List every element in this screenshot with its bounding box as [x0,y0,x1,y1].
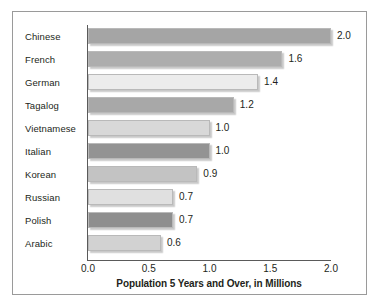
bar [88,143,210,159]
bar [88,97,234,113]
bar-row: Korean 0.9 [12,163,367,186]
bar-row: Polish 0.7 [12,209,367,232]
bar-row: Tagalog 1.2 [12,94,367,117]
bar-value-label: 0.6 [167,234,181,251]
bar-row: Italian 1.0 [12,140,367,163]
bar [88,120,210,136]
x-tick-label: 0.0 [68,263,108,274]
bar-row: German 1.4 [12,71,367,94]
bar [88,212,173,228]
category-label: Chinese [25,25,85,48]
plot-area: Chinese 2.0 French 1.6 German 1.4 Tagalo… [12,11,367,295]
bar-row: Russian 0.7 [12,186,367,209]
bar-row: French 1.6 [12,48,367,71]
x-tick-label: 1.5 [250,263,290,274]
bar [88,189,173,205]
category-label: German [25,71,85,94]
bar-row: Chinese 2.0 [12,25,367,48]
category-label: Tagalog [25,94,85,117]
bar-value-label: 1.4 [264,73,278,90]
category-label: Vietnamese [25,117,85,140]
bar-value-label: 0.7 [179,188,193,205]
bar-value-label: 1.0 [216,119,230,136]
category-label: Polish [25,209,85,232]
bar [88,235,161,251]
bar-row: Vietnamese 1.0 [12,117,367,140]
bar [88,166,197,182]
category-label: French [25,48,85,71]
value-axis-line [87,260,331,261]
bar-value-label: 1.6 [288,50,302,67]
category-label: Russian [25,186,85,209]
bar-value-label: 0.7 [179,211,193,228]
bar-value-label: 1.0 [216,142,230,159]
bar [88,74,258,90]
bar-chart-figure: Chinese 2.0 French 1.6 German 1.4 Tagalo… [0,0,381,307]
x-axis-title: Population 5 Years and Over, in Millions [87,278,331,289]
category-label: Italian [25,140,85,163]
x-tick-label: 2.0 [311,263,351,274]
category-label: Arabic [25,232,85,255]
x-tick-label: 0.5 [129,263,169,274]
x-tick-label: 1.0 [190,263,230,274]
bar-value-label: 0.9 [203,165,217,182]
bar-value-label: 2.0 [337,27,351,44]
bar [88,28,331,44]
category-label: Korean [25,163,85,186]
bar-row: Arabic 0.6 [12,232,367,255]
bar [88,51,282,67]
bar-value-label: 1.2 [240,96,254,113]
